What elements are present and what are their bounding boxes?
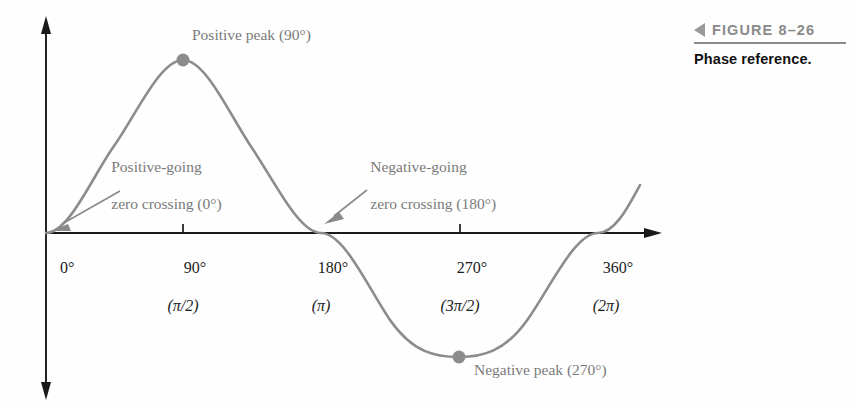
axis-label-270-deg: 270°: [457, 259, 487, 276]
axis-label-360-deg: 360°: [603, 259, 633, 276]
annotation-positive-going-zero-crossing: Positive-going zero crossing (0°): [88, 140, 222, 231]
axis-label-270: 270° (3π/2): [420, 240, 500, 353]
axis-label-360-rad: (2π): [566, 297, 646, 316]
annotation-negative-peak: Negative peak (270°): [474, 361, 607, 379]
annotation-positive-going-line1: Positive-going: [111, 158, 201, 175]
axis-label-180-rad: (π): [281, 297, 361, 316]
figure-caption-block: FIGURE 8–26 Phase reference.: [694, 22, 846, 67]
caret-left-icon: [694, 23, 705, 37]
axis-label-270-rad: (3π/2): [420, 297, 500, 316]
figure-container: Positive peak (90°) Positive-going zero …: [0, 0, 857, 403]
axis-label-360: 360° (2π): [566, 240, 646, 353]
axis-label-180-deg: 180°: [318, 259, 348, 276]
annotation-positive-peak: Positive peak (90°): [192, 26, 311, 44]
caption-divider: [694, 42, 846, 44]
annotation-negative-going-line1: Negative-going: [370, 158, 466, 175]
axis-label-0: 0°: [36, 240, 70, 297]
y-axis: [41, 16, 51, 400]
figure-caption-header: FIGURE 8–26: [694, 22, 846, 42]
axis-label-90-deg: 90°: [184, 259, 206, 276]
figure-caption-text: Phase reference.: [694, 51, 846, 67]
axis-label-180: 180° (π): [281, 240, 361, 353]
axis-label-90-rad: (π/2): [143, 297, 223, 316]
axis-label-0-deg: 0°: [60, 259, 74, 276]
annotation-negative-going-zero-crossing: Negative-going zero crossing (180°): [347, 140, 496, 231]
annotation-negative-going-line2: zero crossing (180°): [370, 195, 496, 212]
annotation-positive-going-line2: zero crossing (0°): [111, 195, 221, 212]
positive-peak-marker: [177, 54, 190, 67]
sine-wave-plot: Positive peak (90°) Positive-going zero …: [0, 0, 680, 403]
figure-number-label: FIGURE 8–26: [712, 22, 815, 38]
axis-label-90: 90° (π/2): [143, 240, 223, 353]
